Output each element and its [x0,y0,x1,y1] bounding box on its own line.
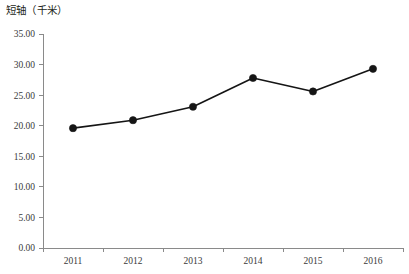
data-point-marker [249,74,256,81]
data-series [69,65,376,132]
y-tick-label: 30.00 [14,60,36,70]
data-point-marker [69,125,76,132]
y-tick-label: 25.00 [14,91,36,101]
y-axis: 0.005.0010.0015.0020.0025.0030.0035.00 [14,29,43,253]
data-point-marker [309,88,316,95]
y-tick-label: 10.00 [14,182,36,192]
y-tick-label: 0.00 [18,243,35,253]
line-chart: 短轴（千米） 0.005.0010.0015.0020.0025.0030.00… [0,0,409,274]
y-tick-label: 20.00 [14,121,36,131]
series-line [73,69,373,128]
x-tick-label: 2014 [244,256,263,266]
x-tick-label: 2012 [124,256,143,266]
x-tick-label: 2011 [64,256,83,266]
y-tick-label: 5.00 [18,213,35,223]
data-point-marker [369,65,376,72]
x-tick-label: 2015 [304,256,323,266]
data-point-marker [129,117,136,124]
y-tick-label: 15.00 [14,152,36,162]
data-point-marker [189,103,196,110]
plot-area: 0.005.0010.0015.0020.0025.0030.0035.00 2… [0,0,409,274]
x-tick-label: 2013 [184,256,203,266]
x-tick-label: 2016 [364,256,383,266]
y-tick-label: 35.00 [14,29,36,39]
x-axis: 201120122013201420152016 [43,248,403,266]
